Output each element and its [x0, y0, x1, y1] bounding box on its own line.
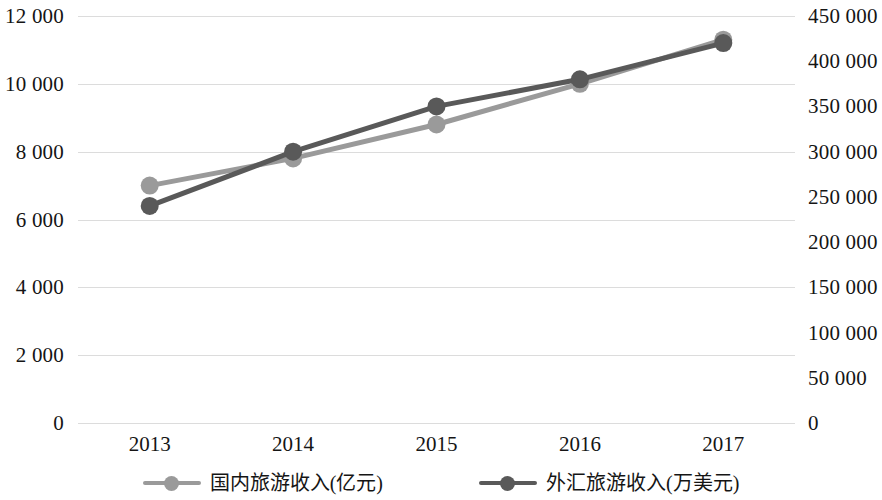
- x-axis: 20132014201520162017: [0, 0, 882, 500]
- x-axis-tick-label: 2015: [416, 432, 458, 456]
- x-axis-tick-label: 2017: [702, 432, 744, 456]
- tourism-revenue-line-chart: 02 0004 0006 0008 00010 00012 000 050 00…: [0, 0, 882, 500]
- chart-legend: 国内旅游收入(亿元) 外汇旅游收入(万美元): [0, 466, 882, 500]
- x-axis-tick-label: 2014: [272, 432, 314, 456]
- legend-item-foreign[interactable]: 外汇旅游收入(万美元): [479, 472, 739, 494]
- legend-item-domestic[interactable]: 国内旅游收入(亿元): [143, 472, 383, 494]
- x-axis-tick-label: 2016: [559, 432, 601, 456]
- legend-label-domestic: 国内旅游收入(亿元): [210, 472, 383, 494]
- legend-marker-domestic-icon: [143, 475, 201, 491]
- legend-marker-foreign-icon: [479, 475, 537, 491]
- legend-label-foreign: 外汇旅游收入(万美元): [546, 472, 739, 494]
- x-axis-tick-label: 2013: [129, 432, 171, 456]
